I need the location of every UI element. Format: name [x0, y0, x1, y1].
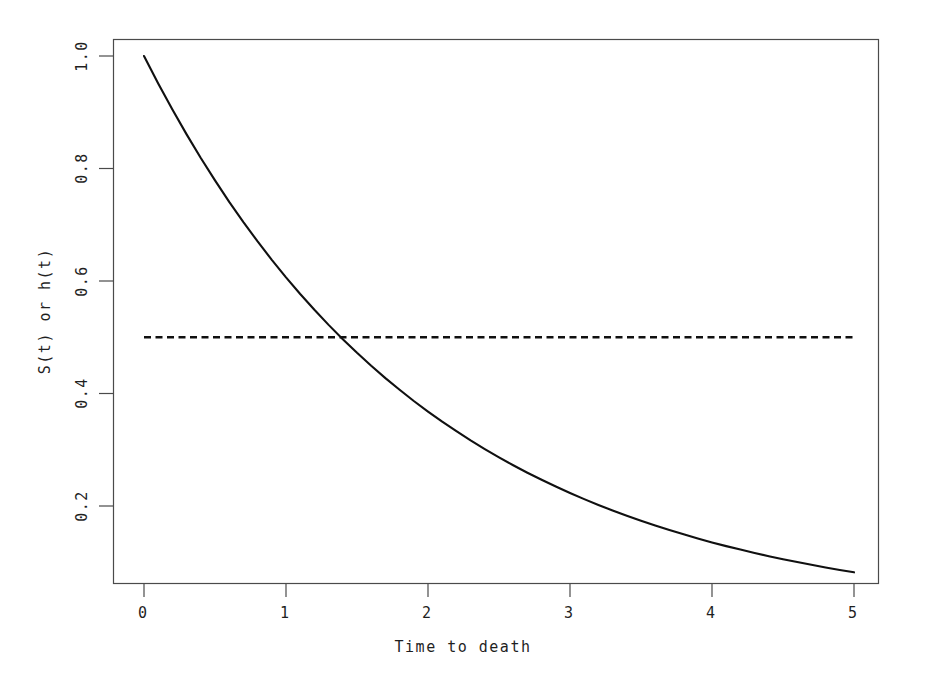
plot-canvas [0, 0, 926, 689]
data-series-group [144, 56, 854, 572]
x-axis-title: Time to death [0, 638, 926, 656]
x-axis-ticks [144, 583, 854, 597]
y-tick-label-0-2: 0.2 [73, 490, 91, 522]
y-axis-title: S(t) or h(t) [36, 248, 54, 374]
x-tick-label-5: 5 [848, 604, 859, 622]
y-tick-label-0-8: 0.8 [73, 152, 91, 184]
survival-curve-line [144, 56, 854, 572]
x-tick-label-0: 0 [138, 604, 149, 622]
x-tick-label-1: 1 [280, 604, 291, 622]
x-tick-label-3: 3 [564, 604, 575, 622]
y-tick-label-0-4: 0.4 [73, 377, 91, 409]
y-axis-ticks [99, 56, 113, 506]
y-tick-label-0-6: 0.6 [73, 265, 91, 297]
x-tick-label-4: 4 [706, 604, 717, 622]
survival-plot-figure: 0 1 2 3 4 5 1.0 0.8 0.6 0.4 0.2 S(t) or … [0, 0, 926, 689]
x-tick-label-2: 2 [422, 604, 433, 622]
y-tick-label-1-0: 1.0 [73, 40, 91, 72]
plot-frame [114, 40, 879, 584]
